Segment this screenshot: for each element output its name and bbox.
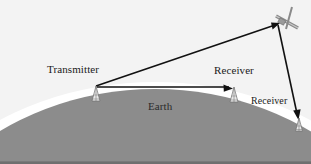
label-transmitter: Transmitter — [47, 63, 99, 75]
label-receiver-terrestrial: Receiver — [214, 64, 254, 76]
plate-bottom-border — [0, 161, 311, 164]
diagram-canvas — [0, 0, 311, 164]
label-earth: Earth — [148, 100, 172, 112]
satellite-link-diagram: Transmitter Receiver Receiver Earth — [0, 0, 311, 164]
label-receiver-satellite: Receiver — [251, 95, 287, 106]
